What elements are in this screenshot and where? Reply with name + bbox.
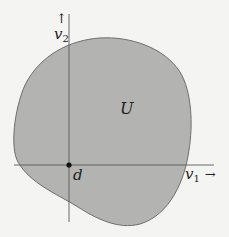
v1-axis-label: v1 → xyxy=(185,167,216,184)
diagram-canvas xyxy=(0,0,229,237)
point-d-marker xyxy=(66,162,71,167)
v2-axis-label: v2 xyxy=(54,27,69,44)
v2-arrow-icon: ↑ xyxy=(56,11,67,26)
point-d-label: d xyxy=(73,168,83,183)
v1-arrow-icon: → xyxy=(205,167,216,182)
region-u-shape xyxy=(14,38,191,226)
region-u-label: U xyxy=(120,101,133,117)
